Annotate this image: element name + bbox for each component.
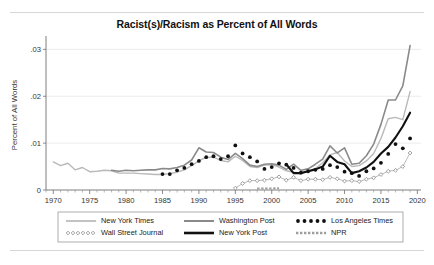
data-point [219, 157, 223, 161]
series-washington-post [112, 46, 411, 172]
data-point [408, 137, 412, 141]
legend-marker [303, 219, 307, 223]
y-axis-title: Percent of All Words [10, 80, 19, 151]
legend-marker [309, 219, 313, 223]
data-point [161, 172, 165, 176]
data-point [408, 151, 412, 155]
figure-container: Racist(s)/Racism as Percent of All Words… [0, 0, 434, 265]
legend-marker [316, 219, 320, 223]
x-tick-label: 2005 [300, 196, 317, 205]
x-tick-label: 1970 [45, 196, 62, 205]
data-point [401, 165, 405, 169]
x-tick-label: 1990 [190, 196, 207, 205]
data-point [284, 178, 288, 182]
data-point [328, 175, 332, 179]
data-point [255, 160, 259, 164]
data-point [386, 152, 390, 156]
x-tick-label: 1975 [81, 196, 98, 205]
legend-label: New York Times [101, 216, 154, 225]
data-point [241, 152, 245, 156]
data-point [248, 155, 252, 159]
series-line [53, 92, 410, 175]
data-point [241, 182, 245, 186]
data-point [306, 177, 310, 181]
data-point [394, 142, 398, 146]
y-tick-label: .03 [30, 45, 41, 54]
data-point [364, 169, 368, 173]
data-point [182, 166, 186, 170]
data-point [292, 166, 296, 170]
data-point [314, 177, 318, 181]
x-tick-label: 1985 [154, 196, 171, 205]
legend-marker [322, 219, 326, 223]
data-point [386, 169, 390, 173]
series-line [112, 46, 411, 172]
data-point [372, 167, 376, 171]
x-tick-label: 2010 [336, 196, 353, 205]
legend-label: NPR [331, 228, 347, 237]
data-point [248, 179, 252, 183]
data-point [255, 179, 259, 183]
data-point [270, 177, 274, 181]
y-tick-label: .02 [30, 92, 41, 101]
y-tick-label: .01 [30, 139, 41, 148]
legend-label: New York Post [219, 228, 267, 237]
data-point [175, 168, 179, 172]
data-point [394, 168, 398, 172]
data-point [357, 174, 361, 178]
data-point [364, 177, 368, 181]
data-point [379, 161, 383, 165]
data-point [197, 159, 201, 163]
data-point [233, 144, 237, 148]
x-tick-label: 1995 [227, 196, 244, 205]
data-point [350, 179, 354, 183]
series-new-york-times [53, 92, 410, 175]
data-point [277, 175, 281, 179]
data-point [335, 165, 339, 169]
legend-marker [296, 219, 300, 223]
x-tick-label: 1980 [118, 196, 135, 205]
legend-label: Wall Street Journal [101, 228, 164, 237]
data-point [204, 155, 208, 159]
y-tick-label: 0 [37, 186, 41, 195]
data-point [263, 167, 267, 171]
data-point [226, 154, 230, 158]
data-point [270, 165, 274, 169]
data-point [190, 162, 194, 166]
data-point [321, 178, 325, 182]
data-point [357, 180, 361, 184]
data-point [401, 146, 405, 150]
legend-label: Los Angeles Times [331, 216, 393, 225]
data-point [168, 172, 172, 176]
data-point [328, 163, 332, 167]
data-point [263, 178, 267, 182]
legend-label: Washington Post [219, 216, 275, 225]
data-point [233, 186, 237, 190]
data-point [277, 161, 281, 165]
x-tick-label: 2015 [372, 196, 389, 205]
data-point [335, 177, 339, 181]
data-point [343, 179, 347, 183]
data-point [212, 154, 216, 158]
data-point [379, 173, 383, 177]
data-point [299, 179, 303, 183]
data-point [343, 170, 347, 174]
data-point [292, 175, 296, 179]
x-tick-label: 2000 [263, 196, 280, 205]
data-point [372, 176, 376, 180]
line-chart: 0.01.02.03197019751980198519901995200020… [0, 0, 434, 265]
x-tick-label: 2020 [409, 196, 426, 205]
